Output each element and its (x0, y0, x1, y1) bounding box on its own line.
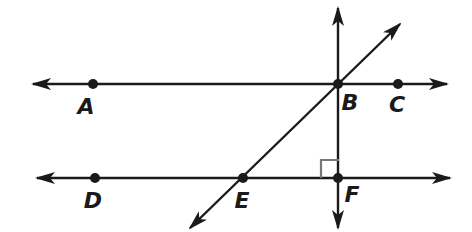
point-F (333, 173, 343, 183)
point-labels: ABCDEF (75, 90, 405, 213)
label-F: F (344, 182, 359, 207)
label-B: B (342, 90, 359, 115)
point-C (393, 79, 403, 89)
point-D (90, 173, 100, 183)
point-E (238, 173, 248, 183)
diagram-canvas: ABCDEF (0, 0, 472, 232)
label-E: E (234, 188, 249, 213)
point-A (88, 79, 98, 89)
label-A: A (75, 94, 94, 119)
geometry-diagram: ABCDEF (0, 0, 472, 232)
label-C: C (389, 92, 405, 117)
line-EB-transversal (190, 24, 400, 228)
label-D: D (84, 188, 102, 213)
point-B (333, 79, 343, 89)
